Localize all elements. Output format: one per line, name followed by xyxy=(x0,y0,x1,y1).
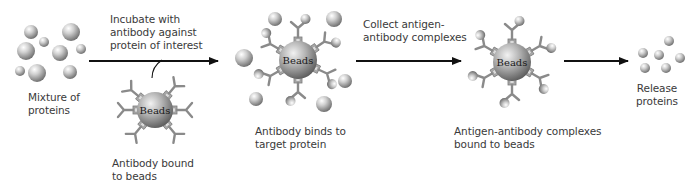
connector-curve xyxy=(152,60,162,78)
bead-label: Beads xyxy=(140,105,171,116)
collect-arrow-label: Collect antigen- antibody complexes xyxy=(363,18,467,44)
label-line: protein of interest xyxy=(110,39,203,52)
immunoprecipitation-diagram: Beads Beads Beads Incubate with antibody… xyxy=(0,0,696,193)
label-line: Release xyxy=(636,82,678,95)
label-line: Antibody binds to xyxy=(255,125,346,138)
bead-label: Beads xyxy=(497,57,528,68)
label-line: proteins xyxy=(636,95,678,108)
label-line: antibody complexes xyxy=(363,31,467,44)
bead-label: Beads xyxy=(283,55,314,66)
label-line: proteins xyxy=(28,104,80,117)
release-label: Release proteins xyxy=(636,82,678,108)
label-line: target protein xyxy=(255,138,346,151)
label-line: to beads xyxy=(112,170,194,183)
label-line: antibody against xyxy=(110,26,203,39)
released-proteins xyxy=(638,36,685,73)
binding-label: Antibody binds to target protein xyxy=(255,125,346,151)
label-line: Incubate with xyxy=(110,13,203,26)
mixture-label: Mixture of proteins xyxy=(28,91,80,117)
label-line: Collect antigen- xyxy=(363,18,467,31)
incubate-arrow-label: Incubate with antibody against protein o… xyxy=(110,13,203,52)
label-line: Antibody bound xyxy=(112,157,194,170)
diagram-canvas: Beads Beads Beads xyxy=(0,0,696,193)
antibody-beads-label: Antibody bound to beads xyxy=(112,157,194,183)
label-line: Mixture of xyxy=(28,91,80,104)
label-line: bound to beads xyxy=(454,138,601,151)
complexes-label: Antigen-antibody complexes bound to bead… xyxy=(454,125,601,151)
protein-mixture xyxy=(15,23,86,82)
label-line: Antigen-antibody complexes xyxy=(454,125,601,138)
